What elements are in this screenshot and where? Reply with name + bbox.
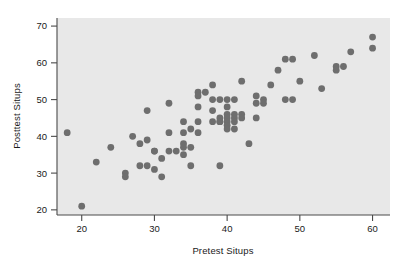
data-point — [180, 118, 187, 125]
data-point — [209, 96, 216, 103]
data-point — [369, 45, 376, 52]
y-tick-label: 50 — [36, 94, 47, 105]
data-point — [166, 148, 173, 155]
plot-canvas: 203040506070 2030405060 Pretest Situps P… — [0, 0, 405, 264]
y-axis-title: Posttest Situps — [11, 83, 22, 149]
data-point — [187, 126, 194, 133]
data-point — [282, 96, 289, 103]
data-point — [129, 133, 136, 140]
data-point — [216, 96, 223, 103]
data-point — [246, 140, 253, 147]
data-point — [209, 107, 216, 114]
data-point — [253, 93, 260, 100]
data-point — [253, 115, 260, 122]
data-point — [64, 129, 71, 136]
data-point — [231, 118, 238, 125]
data-point — [158, 155, 165, 162]
data-point — [195, 104, 202, 111]
data-point — [238, 78, 245, 85]
scatter-plot-figure: 203040506070 2030405060 Pretest Situps P… — [0, 0, 405, 264]
data-point — [296, 78, 303, 85]
data-point — [202, 89, 209, 96]
data-point — [144, 137, 151, 144]
x-axis-ticks: 2030405060 — [76, 215, 377, 234]
x-tick-label: 30 — [149, 223, 160, 234]
data-point — [180, 151, 187, 158]
data-point — [173, 148, 180, 155]
data-point — [289, 56, 296, 63]
data-point — [151, 166, 158, 173]
data-point — [340, 63, 347, 70]
data-point — [78, 203, 85, 210]
data-point — [93, 159, 100, 166]
y-tick-label: 60 — [36, 57, 47, 68]
data-point — [158, 173, 165, 180]
data-point — [238, 115, 245, 122]
data-point — [107, 144, 114, 151]
data-point — [253, 100, 260, 107]
data-point — [209, 118, 216, 125]
data-point — [231, 96, 238, 103]
data-point — [195, 129, 202, 136]
x-tick-label: 40 — [222, 223, 233, 234]
data-point — [180, 144, 187, 151]
plot-panel-background — [57, 18, 390, 215]
x-axis-title: Pretest Situps — [192, 245, 253, 256]
y-tick-label: 40 — [36, 131, 47, 142]
data-point — [289, 96, 296, 103]
y-tick-label: 30 — [36, 168, 47, 179]
data-point — [195, 93, 202, 100]
data-point — [282, 56, 289, 63]
data-point — [224, 104, 231, 111]
x-tick-label: 20 — [76, 223, 87, 234]
data-point — [187, 144, 194, 151]
x-tick-label: 50 — [295, 223, 306, 234]
data-point — [224, 96, 231, 103]
y-tick-label: 20 — [36, 204, 47, 215]
y-axis-ticks: 203040506070 — [36, 20, 57, 215]
data-point — [166, 129, 173, 136]
data-point — [333, 67, 340, 74]
data-point — [224, 126, 231, 133]
data-point — [318, 85, 325, 92]
data-point — [260, 100, 267, 107]
data-point — [122, 173, 129, 180]
data-point — [267, 81, 274, 88]
data-point — [187, 162, 194, 169]
data-point — [151, 148, 158, 155]
data-point — [275, 67, 282, 74]
data-point — [311, 52, 318, 59]
data-point — [144, 162, 151, 169]
data-point — [136, 140, 143, 147]
data-point — [136, 162, 143, 169]
data-point — [144, 107, 151, 114]
data-point — [369, 34, 376, 41]
data-point — [231, 126, 238, 133]
data-point — [209, 81, 216, 88]
data-point — [180, 129, 187, 136]
y-tick-label: 70 — [36, 20, 47, 31]
x-tick-label: 60 — [367, 223, 378, 234]
data-point — [347, 48, 354, 55]
data-point — [195, 118, 202, 125]
data-point — [216, 162, 223, 169]
data-point — [166, 100, 173, 107]
data-point — [216, 118, 223, 125]
